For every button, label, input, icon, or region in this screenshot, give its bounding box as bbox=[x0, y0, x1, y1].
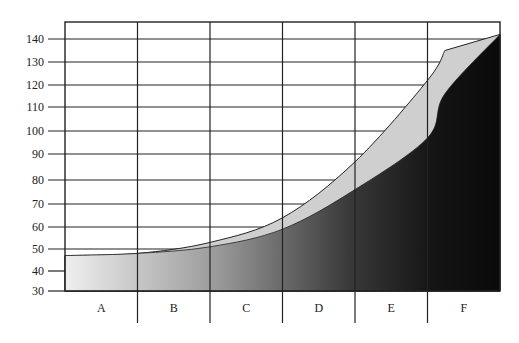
y-tick-label-120: 120 bbox=[26, 78, 44, 92]
x-label-B: B bbox=[170, 301, 178, 315]
x-label-D: D bbox=[314, 301, 323, 315]
x-label-E: E bbox=[388, 301, 395, 315]
y-tick-label-60: 60 bbox=[32, 220, 44, 234]
y-tick-label-70: 70 bbox=[32, 197, 44, 211]
x-label-A: A bbox=[97, 301, 106, 315]
y-tick-label-110: 110 bbox=[26, 100, 44, 114]
y-tick-label-80: 80 bbox=[32, 173, 44, 187]
y-tick-label-100: 100 bbox=[26, 124, 44, 138]
x-label-F: F bbox=[460, 301, 467, 315]
y-tick-label-140: 140 bbox=[26, 32, 44, 46]
y-tick-label-40: 40 bbox=[32, 264, 44, 278]
y-tick-label-50: 50 bbox=[32, 242, 44, 256]
y-tick-label-30: 30 bbox=[32, 284, 44, 298]
y-tick-label-130: 130 bbox=[26, 55, 44, 69]
area-chart: 30405060708090100110120130140 ABCDEF bbox=[0, 0, 519, 343]
y-tick-label-90: 90 bbox=[32, 147, 44, 161]
y-axis-tick-labels: 30405060708090100110120130140 bbox=[26, 32, 44, 298]
x-label-C: C bbox=[242, 301, 250, 315]
